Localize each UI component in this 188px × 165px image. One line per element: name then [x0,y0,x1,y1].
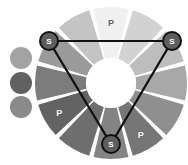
wheel-hub [86,58,136,108]
swatch-column [10,47,32,118]
node-label-s-top-right: S [169,37,175,46]
swatch-dark [10,72,32,94]
figure-canvas: PPP SSS [0,0,188,165]
triad-node-s-top-left: S [40,32,58,50]
segment-label-lower-left: P [56,108,62,118]
triad-node-s-top-right: S [163,32,181,50]
triad-node-s-bottom: S [102,135,120,153]
colour-wheel-diagram: PPP SSS [0,0,188,165]
node-label-s-top-left: S [46,37,52,46]
node-label-s-bottom: S [108,140,114,149]
swatch-light [10,47,32,69]
segment-label-bottom-right: P [138,130,144,140]
swatch-medium [10,96,32,118]
segment-label-top: P [108,18,114,28]
